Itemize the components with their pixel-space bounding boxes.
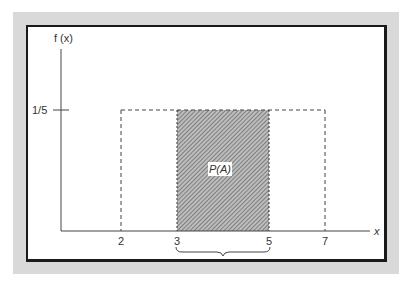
- brace: [176, 247, 270, 256]
- y-axis-label: f (x): [54, 32, 73, 44]
- x-axis-label: x: [373, 225, 380, 237]
- x-tick-label-5: 5: [266, 235, 272, 247]
- y-tick-label: 1/5: [32, 104, 47, 116]
- region-label: P(A): [209, 163, 231, 175]
- uniform-density-chart: f (x) 1/5 x 2 3 5 7 P(A): [0, 0, 411, 285]
- x-tick-label-7: 7: [322, 235, 328, 247]
- x-tick-label-2: 2: [118, 235, 124, 247]
- x-tick-label-3: 3: [174, 235, 180, 247]
